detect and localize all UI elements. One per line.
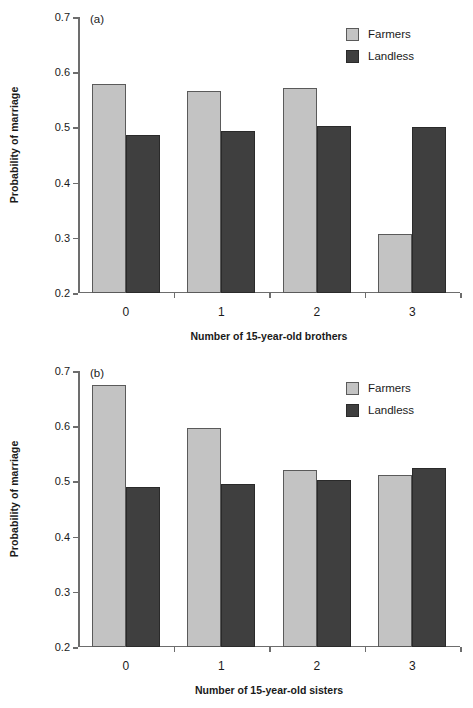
bar-farmers-1 bbox=[187, 91, 221, 293]
x-axis-tick-label: 1 bbox=[201, 659, 241, 673]
bar-landless-0 bbox=[126, 135, 160, 293]
y-axis-tick bbox=[73, 426, 78, 428]
legend: FarmersLandless bbox=[346, 377, 414, 421]
legend-item-farmers: Farmers bbox=[346, 23, 414, 45]
panel-label: (b) bbox=[90, 367, 104, 379]
legend-item-farmers: Farmers bbox=[346, 377, 414, 399]
x-axis-tick bbox=[174, 647, 176, 652]
legend-label: Farmers bbox=[368, 28, 411, 40]
bar-farmers-0 bbox=[92, 84, 126, 293]
y-axis-title-text: Probability of marriage bbox=[8, 441, 20, 558]
legend-label: Landless bbox=[368, 404, 414, 416]
bar-landless-1 bbox=[221, 484, 255, 647]
figure-root: Probability of marriage0.20.30.40.50.60.… bbox=[0, 0, 473, 708]
y-axis-tick bbox=[73, 371, 78, 373]
bar-farmers-3 bbox=[378, 234, 412, 293]
bar-farmers-1 bbox=[187, 428, 221, 647]
y-axis-tick-label: 0.5 bbox=[36, 475, 70, 487]
legend-swatch-landless bbox=[346, 404, 359, 417]
legend-swatch-farmers bbox=[346, 382, 359, 395]
bar-landless-3 bbox=[412, 127, 446, 293]
bar-landless-1 bbox=[221, 131, 255, 293]
y-axis-tick bbox=[73, 293, 78, 295]
legend-swatch-landless bbox=[346, 50, 359, 63]
chart-panel-b: Probability of marriage0.20.30.40.50.60.… bbox=[0, 354, 473, 708]
y-axis-tick bbox=[73, 127, 78, 129]
y-axis-title: Probability of marriage bbox=[4, 354, 24, 644]
legend: FarmersLandless bbox=[346, 23, 414, 67]
bar-farmers-3 bbox=[378, 475, 412, 647]
y-axis-tick-label: 0.6 bbox=[36, 66, 70, 78]
y-axis-tick-label: 0.2 bbox=[36, 287, 70, 299]
y-axis-tick-label: 0.4 bbox=[36, 177, 70, 189]
bar-farmers-0 bbox=[92, 385, 126, 647]
x-axis-title: Number of 15-year-old sisters bbox=[78, 684, 460, 696]
legend-item-landless: Landless bbox=[346, 45, 414, 67]
x-axis-tick-label: 1 bbox=[201, 305, 241, 319]
x-axis-tick bbox=[269, 647, 271, 652]
y-axis-tick-label: 0.3 bbox=[36, 586, 70, 598]
y-axis-tick-label: 0.7 bbox=[36, 365, 70, 377]
y-axis-tick-label: 0.6 bbox=[36, 420, 70, 432]
bar-farmers-2 bbox=[283, 470, 317, 647]
y-axis-tick bbox=[73, 17, 78, 19]
x-axis-tick bbox=[174, 293, 176, 298]
bar-landless-0 bbox=[126, 487, 160, 647]
y-axis-tick-label: 0.4 bbox=[36, 531, 70, 543]
bar-farmers-2 bbox=[283, 88, 317, 293]
y-axis-tick-label: 0.2 bbox=[36, 641, 70, 653]
y-axis-tick bbox=[73, 183, 78, 185]
x-axis-tick-label: 3 bbox=[392, 305, 432, 319]
panel-label: (a) bbox=[90, 13, 104, 25]
y-axis-tick bbox=[73, 72, 78, 74]
chart-panel-a: Probability of marriage0.20.30.40.50.60.… bbox=[0, 0, 473, 354]
legend-swatch-farmers bbox=[346, 28, 359, 41]
legend-label: Landless bbox=[368, 50, 414, 62]
x-axis-tick bbox=[269, 293, 271, 298]
x-axis-tick bbox=[365, 647, 367, 652]
x-axis-tick-label: 2 bbox=[297, 305, 337, 319]
y-axis-tick bbox=[73, 238, 78, 240]
legend-item-landless: Landless bbox=[346, 399, 414, 421]
x-axis-tick-label: 2 bbox=[297, 659, 337, 673]
y-axis-tick-label: 0.5 bbox=[36, 121, 70, 133]
x-axis-tick bbox=[365, 293, 367, 298]
y-axis-tick bbox=[73, 537, 78, 539]
y-axis-line bbox=[78, 17, 80, 293]
y-axis-tick-label: 0.7 bbox=[36, 11, 70, 23]
plot-area: 0.20.30.40.50.60.70123(a)FarmersLandless bbox=[78, 17, 460, 293]
x-axis-tick bbox=[460, 647, 462, 652]
y-axis-tick bbox=[73, 647, 78, 649]
y-axis-tick-label: 0.3 bbox=[36, 232, 70, 244]
x-axis-tick bbox=[460, 293, 462, 298]
y-axis-line bbox=[78, 371, 80, 647]
plot-area: 0.20.30.40.50.60.70123(b)FarmersLandless bbox=[78, 371, 460, 647]
x-axis-title: Number of 15-year-old brothers bbox=[78, 330, 460, 342]
x-axis-tick-label: 3 bbox=[392, 659, 432, 673]
y-axis-tick bbox=[73, 592, 78, 594]
x-axis-tick-label: 0 bbox=[106, 659, 146, 673]
legend-label: Farmers bbox=[368, 382, 411, 394]
bar-landless-2 bbox=[317, 126, 351, 293]
bar-landless-3 bbox=[412, 468, 446, 647]
x-axis-tick-label: 0 bbox=[106, 305, 146, 319]
y-axis-title: Probability of marriage bbox=[4, 0, 24, 290]
y-axis-title-text: Probability of marriage bbox=[8, 87, 20, 204]
bar-landless-2 bbox=[317, 480, 351, 647]
y-axis-tick bbox=[73, 481, 78, 483]
